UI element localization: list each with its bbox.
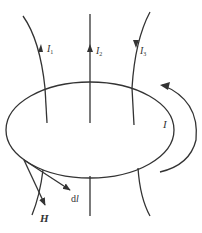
label-current-1: I1 — [46, 43, 53, 55]
current-line-1-lower — [45, 88, 47, 123]
current-1-arrow-icon — [38, 44, 43, 52]
current-line-3-upper — [132, 12, 150, 125]
current-line-1-bottom — [32, 170, 43, 215]
current-line-3-lower — [138, 168, 150, 216]
label-field-h: H — [39, 212, 49, 224]
label-line-element: dl — [71, 193, 79, 204]
label-current-2: I2 — [95, 45, 102, 57]
loop-arrow-icon — [160, 82, 170, 90]
ampere-law-diagram: I1 I2 I3 I dl H — [0, 0, 202, 233]
label-loop-current: I — [162, 118, 168, 130]
current-2-arrow-icon — [87, 44, 93, 52]
label-current-3: I3 — [139, 45, 146, 57]
